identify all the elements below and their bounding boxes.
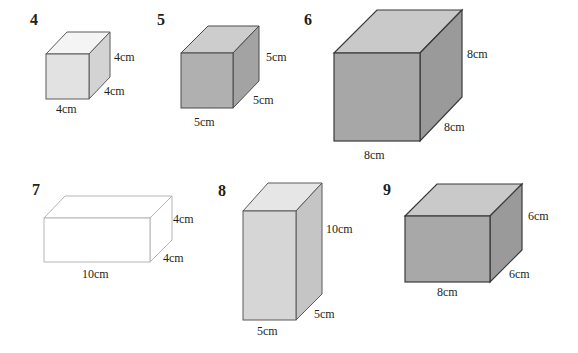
length-label: 8cm — [437, 285, 458, 299]
shape-number: 8 — [218, 182, 226, 199]
cuboid-9: 9 6cm 6cm 8cm — [383, 181, 549, 299]
height-label: 5cm — [266, 50, 287, 64]
shape-number: 9 — [383, 181, 391, 198]
height-label: 4cm — [114, 50, 135, 64]
width-label: 4cm — [104, 84, 125, 98]
cuboid-7: 7 4cm 4cm 10cm — [32, 181, 194, 281]
cuboid-5: 5 5cm 5cm 5cm — [157, 11, 287, 129]
shape-number: 6 — [304, 11, 312, 28]
width-label: 5cm — [314, 307, 335, 321]
height-label: 8cm — [467, 47, 488, 61]
shape-number: 7 — [32, 181, 40, 198]
shape-number: 4 — [30, 11, 38, 28]
cuboid-4: 4 4cm 4cm 4cm — [30, 11, 135, 116]
length-label: 4cm — [56, 102, 77, 116]
length-label: 8cm — [364, 148, 385, 162]
height-label: 6cm — [528, 209, 549, 223]
cuboid-8: 8 10cm 5cm 5cm — [218, 182, 353, 338]
height-label: 4cm — [173, 212, 194, 226]
cuboid-diagram: 4 4cm 4cm 4cm 5 5cm 5cm 5cm 6 8cm 8cm 8c… — [0, 0, 578, 353]
height-label: 10cm — [326, 222, 353, 236]
cuboid-6: 6 8cm 8cm 8cm — [304, 10, 488, 162]
width-label: 5cm — [253, 93, 274, 107]
shape-number: 5 — [157, 11, 165, 28]
width-label: 8cm — [444, 120, 465, 134]
length-label: 5cm — [257, 324, 278, 338]
width-label: 6cm — [509, 267, 530, 281]
width-label: 4cm — [163, 251, 184, 265]
length-label: 10cm — [82, 267, 109, 281]
length-label: 5cm — [194, 115, 215, 129]
